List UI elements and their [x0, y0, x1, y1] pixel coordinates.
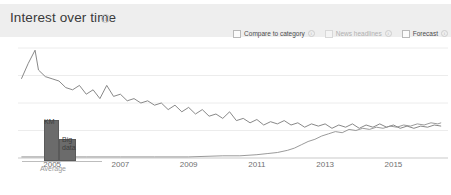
info-icon[interactable]: i [441, 30, 448, 37]
x-axis-tick: 2013 [316, 160, 334, 169]
option-forecast[interactable]: Forecast i [402, 27, 448, 40]
x-axis-tick: 2009 [180, 160, 198, 169]
option-label: Forecast [413, 30, 438, 37]
info-icon[interactable]: i [308, 30, 315, 37]
option-label: Compare to category [244, 30, 305, 37]
x-axis-tick: 2007 [111, 160, 129, 169]
info-icon[interactable]: i [385, 30, 392, 37]
chart-options-row: Compare to category i News headlines i F… [233, 27, 448, 40]
x-axis-tick: 2011 [248, 160, 265, 169]
average-bar-overlay: KM Big data Average [22, 112, 102, 170]
average-bar-km[interactable] [44, 120, 59, 161]
average-bar-label-big-data: Big data [62, 136, 80, 152]
x-axis-tick: 2015 [384, 160, 402, 169]
average-baseline [22, 161, 102, 162]
forecast-checkbox[interactable] [402, 30, 410, 38]
news-headlines-checkbox[interactable] [325, 30, 333, 38]
option-label: News headlines [336, 30, 382, 37]
info-icon[interactable]: i [101, 14, 110, 23]
average-axis-label: Average [40, 165, 66, 172]
option-news-headlines[interactable]: News headlines i [325, 27, 392, 40]
compare-to-category-checkbox[interactable] [233, 30, 241, 38]
option-compare-to-category[interactable]: Compare to category i [233, 27, 315, 40]
interest-over-time-panel: Interest over time i Compare to category… [0, 0, 451, 195]
average-bar-label-km: KM [44, 118, 55, 126]
